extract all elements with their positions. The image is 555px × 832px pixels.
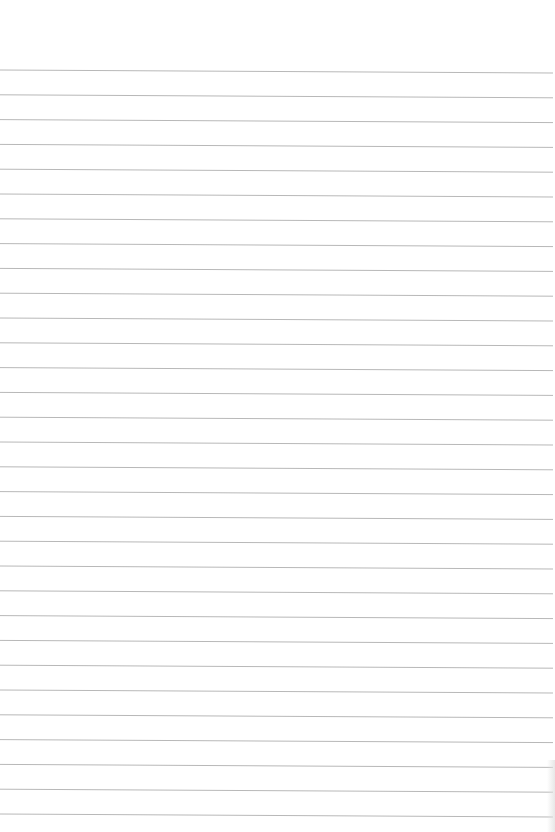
ruled-line [0,268,553,271]
ruled-line [0,516,553,519]
ruled-line [0,194,553,197]
ruled-line [0,417,553,420]
page-edge-shadow [547,760,555,832]
ruled-line [0,219,553,222]
ruled-line [0,764,553,767]
ruled-line [0,95,553,98]
ruled-line [0,541,553,544]
ruled-line [0,789,553,792]
ruled-line [0,591,553,594]
ruled-line [0,144,553,147]
ruled-line [0,665,553,668]
ruled-line [0,392,553,395]
ruled-line [0,640,553,643]
ruled-line [0,368,553,371]
ruled-line [0,120,553,123]
ruled-line [0,467,553,470]
ruled-line [0,442,553,445]
ruled-paper-sheet [0,0,555,832]
ruled-line [0,318,553,321]
ruled-lines [0,0,555,832]
ruled-line [0,293,553,296]
ruled-line [0,690,553,693]
ruled-line [0,70,553,73]
ruled-line [0,343,553,346]
ruled-line [0,715,553,718]
ruled-line [0,169,553,172]
ruled-line [0,814,553,817]
ruled-line [0,616,553,619]
ruled-line [0,740,553,743]
ruled-line [0,566,553,569]
ruled-line [0,492,553,495]
ruled-line [0,244,553,247]
